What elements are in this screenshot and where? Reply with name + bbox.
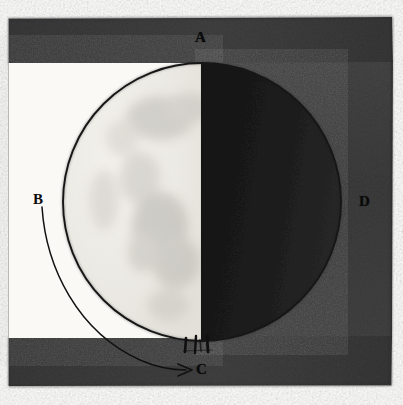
- hatch-tick-1: [185, 338, 186, 352]
- maria-patch-left-limb: [90, 170, 118, 230]
- point-label-b: B: [33, 192, 43, 207]
- maria-patch-bottom: [148, 289, 188, 321]
- hatch-tick-4: [200, 340, 201, 351]
- point-label-c: C: [196, 362, 207, 377]
- engraving-plate: [0, 0, 403, 405]
- maria-patch-lower-left: [128, 232, 156, 272]
- point-label-d: D: [359, 194, 370, 209]
- moon-diagram-figure: A B C D: [0, 0, 403, 405]
- maria-patch-top-left: [106, 120, 138, 156]
- point-label-a: A: [195, 30, 206, 45]
- maria-patch-lower: [152, 236, 200, 288]
- lunar-disc: [63, 62, 341, 342]
